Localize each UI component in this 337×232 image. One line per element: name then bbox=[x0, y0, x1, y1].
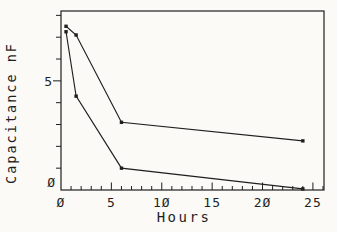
x-axis-tick-label: 25 bbox=[304, 195, 322, 210]
data-point-marker-lower-curve bbox=[301, 187, 304, 190]
capacitance-vs-hours-chart: Ø51Ø152Ø25Ø5HoursCapacitance nF bbox=[0, 0, 337, 232]
plot-frame bbox=[61, 11, 324, 190]
data-point-marker-lower-curve bbox=[120, 166, 123, 169]
data-point-marker-upper-curve bbox=[74, 33, 77, 36]
x-axis-title: Hours bbox=[157, 209, 212, 225]
y-axis-title: Capacitance nF bbox=[3, 42, 19, 184]
x-axis-tick-label: 1Ø bbox=[153, 195, 171, 210]
data-point-marker-upper-curve bbox=[64, 25, 67, 28]
y-axis-tick-label: 5 bbox=[44, 74, 52, 89]
scanned-chart-figure: Ø51Ø152Ø25Ø5HoursCapacitance nF bbox=[0, 0, 337, 232]
data-point-marker-upper-curve bbox=[120, 121, 123, 124]
x-axis-tick-label: 2Ø bbox=[254, 195, 272, 210]
data-point-marker-upper-curve bbox=[301, 139, 304, 142]
y-axis-tick-label: Ø bbox=[47, 175, 55, 190]
data-point-marker-lower-curve bbox=[64, 30, 67, 33]
data-point-marker-lower-curve bbox=[74, 94, 77, 97]
x-axis-tick-label: 15 bbox=[203, 195, 221, 210]
series-line-upper-curve bbox=[66, 26, 303, 141]
x-axis-tick-label: 5 bbox=[107, 195, 116, 210]
x-axis-tick-label: Ø bbox=[57, 195, 66, 210]
series-line-lower-curve bbox=[66, 32, 303, 189]
